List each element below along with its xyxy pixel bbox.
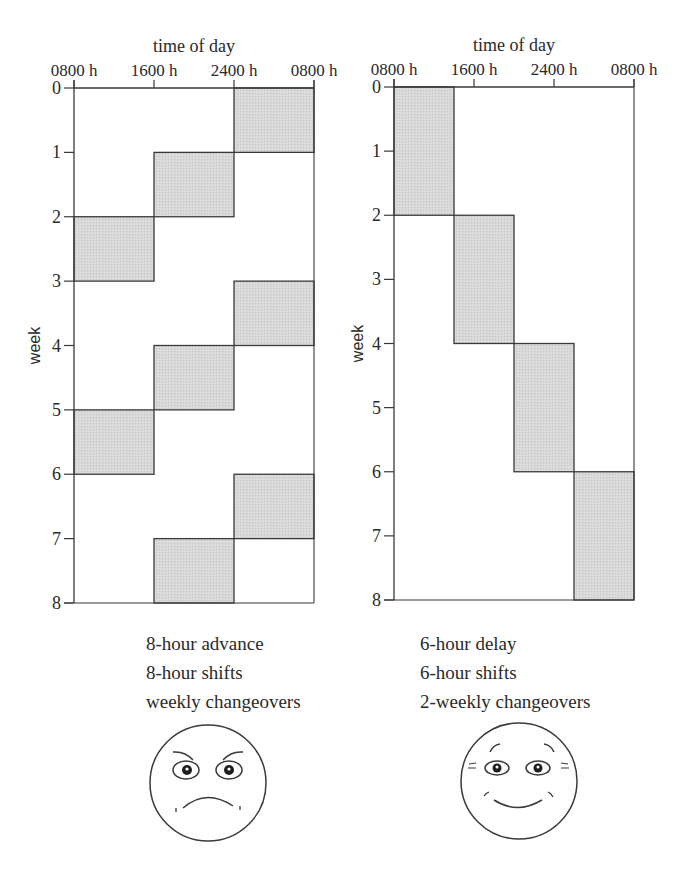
shift-block: [154, 346, 234, 410]
y-tick-label: 1: [52, 142, 61, 162]
shift-block: [394, 87, 454, 215]
caption-right: 6-hour delay 6-hour shifts 2-weekly chan…: [420, 629, 590, 716]
x-axis-label: time of day: [473, 35, 555, 55]
y-tick-label: 6: [372, 462, 381, 482]
y-axis-label: week: [26, 326, 43, 365]
shift-block: [234, 88, 314, 152]
x-tick-label: 2400 h: [531, 60, 578, 79]
caption-left: 8-hour advance 8-hour shifts weekly chan…: [146, 629, 301, 716]
caption-left-line-1: 8-hour advance: [146, 629, 301, 658]
caption-right-line-1: 6-hour delay: [420, 629, 590, 658]
chart-6h-delay: 0800 h1600 h2400 h0800 htime of day01234…: [349, 35, 658, 610]
y-tick-label: 6: [52, 464, 61, 484]
y-tick-label: 0: [372, 77, 381, 97]
chart-8h-advance: 0800 h1600 h2400 h0800 htime of day01234…: [26, 36, 338, 613]
y-tick-label: 0: [52, 78, 61, 98]
y-tick-label: 3: [52, 271, 61, 291]
y-axis-label: week: [349, 324, 366, 363]
y-tick-label: 1: [372, 141, 381, 161]
x-tick-label: 0800 h: [611, 60, 658, 79]
y-tick-label: 8: [372, 590, 381, 610]
y-tick-label: 5: [52, 400, 61, 420]
shift-block: [514, 344, 574, 472]
y-tick-label: 4: [372, 334, 381, 354]
y-tick-label: 2: [372, 205, 381, 225]
caption-right-line-3: 2-weekly changeovers: [420, 687, 590, 716]
y-tick-label: 5: [372, 398, 381, 418]
shift-block: [154, 539, 234, 603]
y-tick-label: 2: [52, 207, 61, 227]
y-tick-label: 7: [52, 529, 61, 549]
shift-block: [574, 472, 634, 600]
x-axis-label: time of day: [153, 36, 235, 56]
caption-left-line-2: 8-hour shifts: [146, 658, 301, 687]
unhappy-face-icon: [143, 718, 273, 848]
shift-block: [74, 410, 154, 474]
x-tick-label: 0800 h: [291, 61, 338, 80]
shift-block: [454, 215, 514, 343]
caption-left-line-3: weekly changeovers: [146, 687, 301, 716]
shift-block: [154, 152, 234, 216]
y-tick-label: 8: [52, 593, 61, 613]
charts-canvas: 0800 h1600 h2400 h0800 htime of day01234…: [0, 0, 691, 870]
x-tick-label: 1600 h: [451, 60, 498, 79]
shift-block: [234, 474, 314, 538]
shift-block: [74, 217, 154, 281]
happy-face-icon: [457, 718, 587, 848]
x-tick-label: 2400 h: [211, 61, 258, 80]
y-tick-label: 4: [52, 336, 61, 356]
caption-right-line-2: 6-hour shifts: [420, 658, 590, 687]
x-tick-label: 1600 h: [131, 61, 178, 80]
shift-block: [234, 281, 314, 345]
y-tick-label: 3: [372, 269, 381, 289]
y-tick-label: 7: [372, 526, 381, 546]
